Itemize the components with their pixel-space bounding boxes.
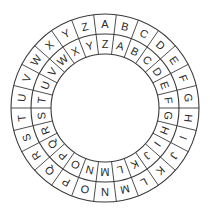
outer-separator bbox=[177, 126, 196, 131]
inner-letter-a: A bbox=[115, 39, 126, 53]
outer-separator bbox=[171, 142, 189, 151]
outer-letter-d: D bbox=[154, 38, 168, 52]
inner-letter-f: F bbox=[162, 96, 175, 104]
inner-letter-r: R bbox=[38, 125, 52, 137]
inner-separator bbox=[33, 90, 52, 95]
outer-separator bbox=[177, 86, 196, 91]
inner-separator bbox=[33, 121, 52, 126]
inner-letter-e: E bbox=[158, 80, 172, 91]
outer-separator bbox=[131, 177, 138, 196]
outer-letter-j: J bbox=[168, 150, 181, 161]
outer-separator bbox=[94, 181, 96, 201]
outer-letter-r: R bbox=[29, 149, 43, 162]
outer-letter-v: V bbox=[20, 72, 34, 84]
inner-separator bbox=[96, 162, 98, 182]
inner-separator bbox=[157, 90, 176, 95]
outer-letter-z: Z bbox=[80, 20, 90, 33]
inner-letter-j: J bbox=[141, 150, 153, 163]
inner-separator bbox=[96, 35, 98, 55]
middle-circle bbox=[31, 34, 179, 182]
outer-letter-y: Y bbox=[60, 26, 73, 40]
outer-letter-k: K bbox=[153, 164, 167, 178]
inner-letter-p: P bbox=[56, 149, 69, 163]
outer-letter-p: P bbox=[60, 175, 72, 189]
inner-letter-b: B bbox=[129, 44, 141, 58]
inner-letter-m: M bbox=[100, 166, 109, 178]
outer-letter-b: B bbox=[120, 20, 130, 33]
outer-separator bbox=[114, 15, 116, 35]
inner-letter-v: V bbox=[45, 65, 59, 78]
inner-letter-l: L bbox=[116, 164, 125, 177]
outer-letter-e: E bbox=[167, 54, 181, 67]
outer-separator bbox=[171, 64, 189, 73]
outer-separator bbox=[14, 126, 33, 131]
outer-letter-s: S bbox=[20, 132, 34, 143]
inner-letter-s: S bbox=[35, 111, 48, 120]
outer-letter-u: U bbox=[15, 93, 28, 102]
inner-letter-u: U bbox=[38, 79, 52, 91]
outer-letter-o: O bbox=[79, 183, 91, 197]
cipher-wheel: ABCDEFGHIJKLMNOPQRSTUVWXYZ ZABCDEFGHIJKL… bbox=[0, 0, 210, 213]
inner-letter-g: G bbox=[162, 111, 175, 121]
outer-letter-a: A bbox=[101, 18, 109, 30]
outer-separator bbox=[72, 177, 79, 196]
inner-letter-h: H bbox=[158, 125, 172, 137]
outer-separator bbox=[94, 15, 96, 35]
outer-letter-w: W bbox=[28, 52, 44, 68]
inner-letter-y: Y bbox=[85, 39, 96, 53]
inner-circle bbox=[51, 54, 159, 162]
inner-letter-d: D bbox=[150, 65, 164, 78]
inner-separator bbox=[157, 121, 176, 126]
outer-letter-i: I bbox=[177, 134, 189, 141]
outer-separator bbox=[14, 86, 33, 91]
inner-letter-i: I bbox=[152, 140, 164, 149]
outer-separator bbox=[72, 20, 79, 39]
outer-letter-g: G bbox=[182, 93, 195, 103]
outer-letter-n: N bbox=[101, 186, 109, 198]
outer-letter-c: C bbox=[138, 26, 151, 40]
inner-letter-q: Q bbox=[45, 137, 60, 151]
outer-letter-q: Q bbox=[42, 163, 57, 178]
inner-letter-c: C bbox=[140, 53, 154, 67]
outer-letter-x: X bbox=[43, 38, 57, 52]
inner-letter-o: O bbox=[68, 157, 82, 172]
outer-letter-l: L bbox=[139, 176, 150, 189]
inner-letter-k: K bbox=[128, 158, 141, 172]
inner-letter-t: T bbox=[35, 96, 48, 104]
outer-separator bbox=[114, 181, 116, 201]
outer-letter-t: T bbox=[15, 114, 28, 122]
inner-letter-z: Z bbox=[102, 38, 109, 50]
inner-separator bbox=[112, 162, 114, 182]
inner-letter-x: X bbox=[69, 44, 82, 58]
outer-letter-m: M bbox=[119, 183, 131, 197]
inner-letter-n: N bbox=[84, 163, 95, 177]
outer-letter-h: H bbox=[182, 113, 195, 122]
outer-letter-f: F bbox=[177, 73, 191, 84]
inner-ring[interactable]: ZABCDEFGHIJKLMNOPQRSTUVWXY bbox=[31, 35, 179, 182]
inner-separator bbox=[112, 35, 114, 55]
